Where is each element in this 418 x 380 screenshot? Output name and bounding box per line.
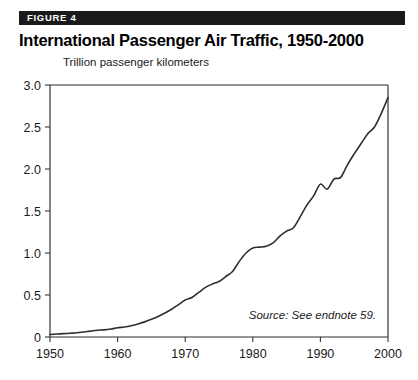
y-tick-label: 2.5 [24, 121, 41, 135]
x-tick-label: 1990 [306, 347, 334, 361]
y-tick-label: 2.0 [24, 163, 41, 177]
y-tick-label: 3.0 [24, 79, 41, 93]
y-tick-label: 0 [34, 331, 41, 345]
y-axis-group: 00.51.01.52.02.53.0 [24, 79, 50, 345]
y-tick-label: 1.0 [24, 247, 41, 261]
x-tick-label: 2000 [374, 347, 402, 361]
line-chart-svg: 00.51.01.52.02.53.0 19501960197019801990… [0, 55, 418, 365]
y-tick-label: 1.5 [24, 205, 41, 219]
figure-card: FIGURE 4 International Passenger Air Tra… [0, 0, 418, 380]
y-axis-unit-label: Trillion passenger kilometers [63, 56, 209, 68]
chart-plot-area: 00.51.01.52.02.53.0 19501960197019801990… [0, 55, 418, 365]
chart-title: International Passenger Air Traffic, 195… [19, 31, 364, 50]
y-tick-label: 0.5 [24, 289, 41, 303]
source-note: Source: See endnote 59. [249, 309, 376, 321]
data-series-line [50, 98, 388, 335]
x-tick-label: 1980 [239, 347, 267, 361]
x-tick-labels: 195019601970198019902000 [36, 347, 402, 361]
x-tick-label: 1960 [104, 347, 132, 361]
y-tick-marks [45, 85, 50, 337]
figure-banner [19, 11, 405, 25]
x-tick-marks [50, 337, 388, 342]
figure-number-label: FIGURE 4 [27, 12, 76, 24]
x-axis-group: 195019601970198019902000 [36, 337, 402, 361]
y-tick-labels: 00.51.01.52.02.53.0 [24, 79, 41, 345]
x-tick-label: 1970 [171, 347, 199, 361]
x-tick-label: 1950 [36, 347, 64, 361]
